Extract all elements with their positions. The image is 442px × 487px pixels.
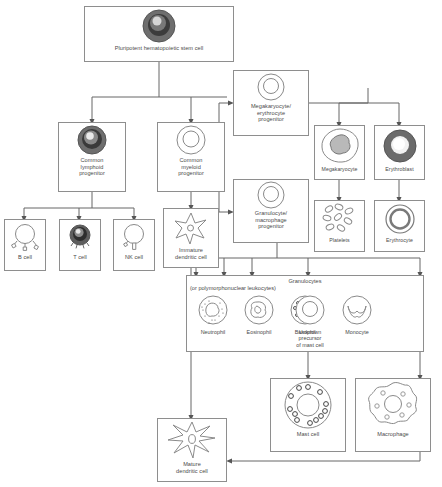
subcell-label: Neutrophil [201, 329, 226, 335]
node-label-line3: progenitor [234, 116, 308, 123]
node-label: Mast cell [271, 431, 345, 438]
erythrocyte-icon [384, 201, 416, 237]
node-granulocyte-macrophage-progenitor[interactable]: Granulocyte/ macrophage progenitor [233, 179, 309, 243]
subcell-label-line3: of mast cell [296, 342, 323, 348]
t-cell-icon [64, 220, 96, 254]
node-pluripotent-stem-cell[interactable]: Pluripotent hematopoietic stem cell [84, 6, 234, 62]
node-label: NK cell [114, 254, 154, 261]
node-megakaryocyte-erythrocyte-progenitor[interactable]: Megakaryocyte/ erythrocyte progenitor [233, 70, 309, 136]
node-mast-cell[interactable]: Mast cell [270, 378, 346, 452]
light-nucleated-cell-icon [257, 71, 285, 103]
nk-cell-icon [118, 220, 150, 254]
subcell-label: Eosinophil [247, 329, 272, 335]
node-label: B cell [5, 254, 45, 261]
mast-precursor-icon [295, 295, 325, 329]
subcell-monocyte[interactable]: Monocyte [332, 295, 382, 335]
light-nucleated-cell-icon [176, 123, 206, 157]
subcell-eosinophil[interactable]: Eosinophil [236, 295, 282, 335]
mast-cell-icon [283, 379, 333, 431]
subcell-precursor-of-mast-cell[interactable]: Unknown precursor of mast cell [286, 295, 334, 348]
node-erythrocyte[interactable]: Erythrocyte [374, 200, 425, 252]
node-macrophage[interactable]: Macrophage [355, 378, 431, 452]
node-common-lymphoid-progenitor[interactable]: Common lymphoid progenitor [58, 122, 126, 192]
node-label-line2: dendritic cell [164, 254, 218, 261]
granulocytes-subtitle: (or polymorphonuclear leukocytes) [187, 285, 423, 292]
node-platelets[interactable]: Platelets [314, 200, 365, 252]
node-label-line3: progenitor [234, 223, 308, 230]
macrophage-icon [365, 379, 421, 431]
node-label: Erythrocyte [375, 237, 424, 243]
node-t-cell[interactable]: T cell [59, 219, 101, 271]
node-label: Pluripotent hematopoietic stem cell [85, 45, 233, 52]
node-label: Platelets [315, 237, 364, 243]
dark-nucleated-cell-icon [77, 123, 107, 157]
subcell-label: Monocyte [345, 329, 368, 335]
node-b-cell[interactable]: B cell [4, 219, 46, 271]
b-cell-icon [9, 220, 41, 254]
node-megakaryocyte[interactable]: Megakaryocyte [314, 125, 365, 180]
erythroblast-icon [382, 126, 418, 166]
node-label-line2: myeloid [158, 164, 224, 171]
node-label-line3: progenitor [158, 170, 224, 177]
node-common-myeloid-progenitor[interactable]: Common myeloid progenitor [157, 122, 225, 192]
node-label-line1: Megakaryocyte/ [234, 103, 308, 110]
node-label: Macrophage [356, 431, 430, 438]
node-label-line2: macrophage [234, 217, 308, 224]
node-nk-cell[interactable]: NK cell [113, 219, 155, 271]
node-mature-dendritic-cell[interactable]: Mature dendritic cell [157, 418, 227, 482]
dendritic-cell-icon [171, 209, 211, 247]
granulocytes-title: Granulocytes [187, 278, 423, 285]
dendritic-cell-icon [165, 419, 219, 461]
node-label: T cell [60, 254, 100, 261]
dark-nucleated-cell-icon [142, 7, 176, 45]
node-label-line1: Common [158, 157, 224, 164]
eosinophil-icon [244, 295, 274, 329]
node-immature-dendritic-cell[interactable]: Immature dendritic cell [163, 208, 219, 268]
node-erythroblast[interactable]: Erythroblast [374, 125, 425, 180]
light-nucleated-cell-icon [257, 180, 285, 210]
neutrophil-icon [198, 295, 228, 329]
node-label-line2: lymphoid [59, 164, 125, 171]
node-label: Megakaryocyte [315, 166, 364, 172]
node-label-line1: Granulocyte/ [234, 210, 308, 217]
node-label-line1: Common [59, 157, 125, 164]
node-label-line2: dendritic cell [158, 468, 226, 475]
monocyte-icon [342, 295, 372, 329]
node-label-line1: Mature [158, 461, 226, 468]
megakaryocyte-icon [319, 126, 361, 166]
subcell-neutrophil[interactable]: Neutrophil [190, 295, 236, 335]
node-label-line1: Immature [164, 247, 218, 254]
node-label-line3: progenitor [59, 170, 125, 177]
node-label-line2: erythrocyte [234, 110, 308, 117]
node-label: Erythroblast [375, 166, 424, 172]
hematopoiesis-diagram: Pluripotent hematopoietic stem cell Comm… [0, 0, 442, 487]
platelets-icon [320, 201, 360, 237]
